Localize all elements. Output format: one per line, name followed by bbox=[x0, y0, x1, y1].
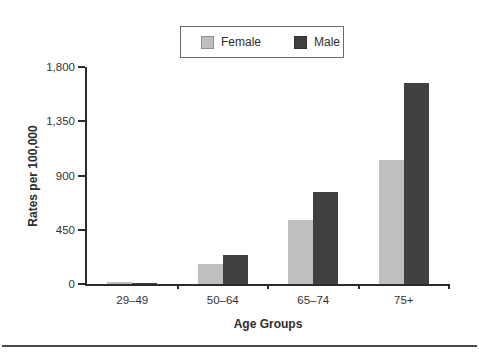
legend-item-male: Male bbox=[294, 35, 340, 49]
bar-female-50–64 bbox=[198, 264, 223, 284]
legend-label-male: Male bbox=[314, 35, 340, 49]
x-category-label: 29–49 bbox=[87, 294, 178, 306]
y-tick-label: 1,800 bbox=[27, 60, 75, 74]
x-tick-mark bbox=[358, 284, 360, 289]
bar-group bbox=[359, 67, 450, 284]
y-tick-mark bbox=[78, 66, 85, 68]
x-tick-mark bbox=[267, 284, 269, 289]
plot-area: 0 450 900 1,350 1,800 29–49 50–64 65–74 … bbox=[85, 67, 449, 286]
y-tick-mark bbox=[78, 229, 85, 231]
female-swatch bbox=[201, 36, 214, 49]
y-tick-label: 0 bbox=[27, 277, 75, 291]
bar-male-75+ bbox=[404, 83, 429, 284]
x-tick-mark bbox=[177, 284, 179, 289]
bar-female-65–74 bbox=[288, 220, 313, 284]
y-tick-mark bbox=[78, 120, 85, 122]
y-tick-label: 450 bbox=[27, 223, 75, 237]
bar-female-29–49 bbox=[107, 282, 132, 284]
bar-group bbox=[268, 67, 359, 284]
x-category-label: 65–74 bbox=[268, 294, 359, 306]
bar-female-75+ bbox=[379, 160, 404, 284]
bar-group bbox=[178, 67, 269, 284]
y-tick-mark bbox=[78, 175, 85, 177]
legend: Female Male bbox=[180, 26, 344, 58]
y-tick-label: 900 bbox=[27, 169, 75, 183]
bar-group bbox=[87, 67, 178, 284]
x-category-label: 50–64 bbox=[178, 294, 269, 306]
x-category-label: 75+ bbox=[359, 294, 450, 306]
y-tick-label: 1,350 bbox=[27, 114, 75, 128]
bar-male-50–64 bbox=[223, 255, 248, 284]
bar-male-29–49 bbox=[132, 283, 157, 284]
legend-label-female: Female bbox=[221, 35, 261, 49]
x-axis-title: Age Groups bbox=[87, 317, 449, 331]
chart-page: Female Male Rates per 100,000 0 450 900 … bbox=[0, 0, 479, 363]
bottom-separator-line bbox=[2, 345, 477, 347]
y-tick-mark bbox=[78, 283, 85, 285]
x-tick-mark bbox=[448, 284, 450, 289]
legend-item-female: Female bbox=[201, 35, 261, 49]
bar-male-65–74 bbox=[313, 192, 338, 284]
male-swatch bbox=[294, 36, 307, 49]
